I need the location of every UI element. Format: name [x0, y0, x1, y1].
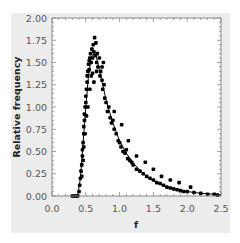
- data-point: [158, 182, 162, 186]
- data-point: [148, 176, 152, 180]
- data-point: [78, 184, 82, 188]
- data-point: [175, 188, 179, 192]
- y-tick-label: 0.50: [26, 146, 47, 157]
- data-point: [87, 68, 91, 72]
- data-point: [88, 87, 92, 91]
- data-point: [119, 145, 123, 149]
- data-point: [86, 105, 90, 109]
- data-point: [120, 123, 124, 127]
- data-point: [82, 145, 86, 149]
- x-tick-labels: 0.00.51.01.52.02.5: [44, 203, 228, 214]
- data-point: [206, 192, 210, 196]
- data-point: [125, 148, 129, 152]
- data-point: [85, 114, 89, 118]
- x-tick-label: 0.0: [44, 203, 59, 214]
- data-point: [112, 127, 116, 131]
- data-point: [83, 119, 87, 123]
- data-point: [106, 110, 110, 114]
- data-point: [92, 50, 96, 54]
- data-point: [169, 186, 173, 190]
- data-point: [85, 80, 89, 84]
- data-point: [93, 36, 97, 40]
- data-point: [135, 154, 139, 158]
- x-tick-label: 1.0: [112, 203, 127, 214]
- data-point: [85, 87, 89, 91]
- data-point: [138, 169, 142, 173]
- data-point: [199, 192, 203, 196]
- data-point: [100, 79, 104, 83]
- data-point: [81, 141, 85, 145]
- data-point: [145, 175, 149, 179]
- data-point: [89, 52, 93, 56]
- y-tick-label: 0.00: [26, 191, 47, 202]
- data-point: [185, 190, 189, 194]
- data-point: [141, 172, 145, 176]
- data-point: [96, 65, 100, 69]
- data-point: [177, 181, 181, 185]
- data-point: [94, 41, 98, 45]
- y-tick-label: 1.00: [26, 102, 47, 113]
- y-axis-title: Relative frequency: [11, 56, 22, 158]
- data-point: [91, 71, 95, 75]
- scatter-chart: 0.00.51.01.52.02.5 0.000.250.500.751.001…: [0, 0, 240, 243]
- data-point: [95, 70, 99, 74]
- data-point: [84, 95, 88, 99]
- data-point: [89, 61, 93, 65]
- x-tick-label: 1.5: [146, 203, 161, 214]
- y-tick-label: 2.00: [26, 13, 47, 24]
- data-point: [95, 61, 99, 65]
- data-point: [169, 178, 173, 182]
- data-point: [118, 141, 122, 145]
- data-point: [165, 185, 169, 189]
- data-point: [77, 190, 81, 194]
- data-point: [160, 175, 164, 179]
- data-point: [152, 178, 156, 182]
- data-point: [85, 74, 89, 78]
- data-point: [127, 139, 131, 143]
- data-point: [81, 159, 85, 163]
- data-point: [80, 175, 84, 179]
- data-point: [112, 110, 116, 114]
- data-point: [104, 101, 108, 105]
- data-point: [182, 190, 186, 194]
- data-point: [102, 61, 106, 65]
- data-point: [82, 125, 86, 129]
- data-point: [107, 105, 111, 109]
- data-point: [100, 65, 104, 69]
- x-axis-title: f: [134, 219, 139, 230]
- x-tick-label: 0.5: [78, 203, 93, 214]
- data-point: [98, 74, 102, 78]
- data-point: [179, 189, 183, 193]
- data-point: [131, 163, 135, 167]
- data-point: [95, 52, 99, 56]
- data-point: [99, 70, 103, 74]
- x-tick-label: 2.5: [213, 203, 228, 214]
- x-tick-label: 2.0: [180, 203, 195, 214]
- y-tick-label: 1.75: [26, 35, 47, 46]
- data-point: [123, 151, 127, 155]
- data-point: [84, 101, 88, 105]
- data-point: [189, 185, 193, 189]
- y-tick-labels: 0.000.250.500.751.001.251.501.752.00: [26, 13, 47, 202]
- data-point: [83, 132, 87, 136]
- data-point: [101, 87, 105, 91]
- data-point: [98, 56, 102, 60]
- data-point: [102, 83, 106, 87]
- data-point: [192, 191, 196, 195]
- y-tick-label: 1.25: [26, 79, 47, 90]
- y-tick-label: 0.25: [26, 168, 47, 179]
- y-tick-label: 1.50: [26, 57, 47, 68]
- data-point: [80, 163, 84, 167]
- y-tick-label: 0.75: [26, 124, 47, 135]
- data-point: [103, 96, 107, 100]
- data-point: [79, 169, 83, 173]
- data-point: [135, 168, 139, 172]
- data-point: [81, 154, 85, 158]
- data-point: [111, 119, 115, 123]
- data-point: [114, 132, 118, 136]
- data-point: [92, 80, 96, 84]
- data-point: [172, 187, 176, 191]
- data-point: [143, 160, 147, 164]
- data-point: [212, 192, 216, 196]
- data-point: [155, 181, 159, 185]
